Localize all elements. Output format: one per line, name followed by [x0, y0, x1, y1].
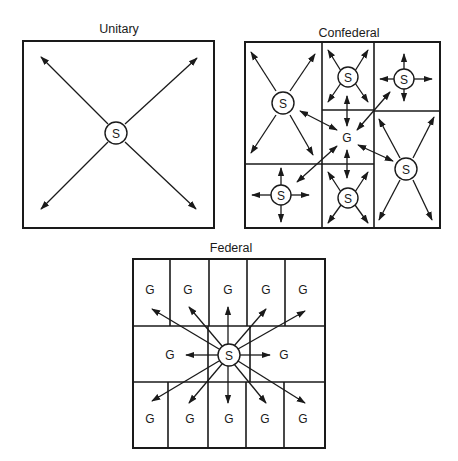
svg-text:G: G	[224, 412, 233, 426]
federal-title: Federal	[210, 241, 252, 255]
confederal-state-topleft: S	[251, 52, 315, 155]
federal-state-label: S	[225, 349, 233, 363]
svg-text:G: G	[185, 412, 194, 426]
svg-text:G: G	[223, 283, 232, 297]
confederal-state-topmid: S	[328, 50, 368, 102]
svg-text:S: S	[277, 189, 285, 203]
state-node-label: S	[112, 127, 120, 141]
government-systems-diagram: Unitary S Confederal S	[0, 0, 458, 461]
confederal-state-bottommid: S	[328, 172, 368, 223]
unitary-title: Unitary	[99, 22, 139, 36]
svg-text:G: G	[165, 348, 174, 362]
svg-text:S: S	[344, 71, 352, 85]
svg-text:G: G	[279, 348, 288, 362]
confederal-diagram: Confederal S S	[245, 26, 440, 228]
arrow-icon	[41, 57, 108, 124]
central-g-label: G	[342, 131, 351, 145]
arrow-icon	[41, 142, 108, 209]
confederal-state-right: S	[379, 117, 434, 220]
unitary-diagram: Unitary S	[23, 22, 214, 228]
svg-text:S: S	[279, 97, 287, 111]
svg-text:S: S	[344, 192, 352, 206]
svg-text:G: G	[145, 283, 154, 297]
svg-text:G: G	[260, 412, 269, 426]
federal-diagram: Federal G G G G G G G G G G G G	[133, 241, 325, 448]
confederal-state-bottomleft: S	[252, 168, 309, 222]
svg-text:G: G	[183, 283, 192, 297]
arrow-icon	[125, 142, 196, 209]
arrow-icon	[125, 58, 197, 124]
svg-text:S: S	[400, 73, 408, 87]
svg-text:G: G	[145, 412, 154, 426]
svg-text:G: G	[298, 412, 307, 426]
svg-text:G: G	[261, 283, 270, 297]
svg-text:G: G	[298, 283, 307, 297]
confederal-title: Confederal	[318, 26, 379, 40]
svg-text:S: S	[402, 163, 410, 177]
confederal-central-government: G	[297, 92, 393, 182]
